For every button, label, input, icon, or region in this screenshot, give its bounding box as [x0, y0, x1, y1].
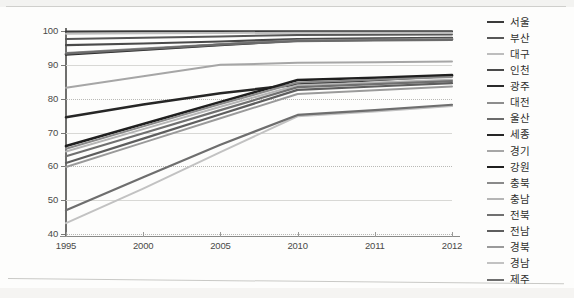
legend-item-인천[interactable]: 인천	[487, 62, 567, 78]
legend-swatch-icon	[487, 118, 504, 120]
y-tick-label-50: 50	[32, 194, 58, 205]
y-tick-label-60: 60	[32, 160, 58, 171]
legend: 서울부산대구인천광주대전울산세종경기강원충북충남전북전남경북경남제주	[487, 14, 567, 288]
legend-item-경기[interactable]: 경기	[487, 143, 567, 159]
legend-label: 서울	[510, 17, 530, 28]
legend-label: 인천	[510, 65, 530, 76]
legend-item-대전[interactable]: 대전	[487, 94, 567, 110]
legend-label: 부산	[510, 33, 530, 44]
legend-swatch-icon	[487, 182, 504, 184]
legend-label: 경기	[510, 146, 530, 157]
legend-label: 충남	[510, 194, 530, 205]
x-tick-label-1995: 1995	[43, 240, 89, 251]
x-tick-label-2011: 2011	[352, 240, 398, 251]
legend-swatch-icon	[487, 134, 504, 136]
x-tick-mark-2010	[298, 232, 299, 237]
legend-swatch-icon	[487, 37, 504, 39]
legend-label: 세종	[510, 129, 530, 140]
y-tick-label-70: 70	[32, 127, 58, 138]
legend-swatch-icon	[487, 279, 504, 281]
legend-swatch-icon	[487, 246, 504, 248]
x-axis-line	[60, 236, 460, 237]
legend-item-경북[interactable]: 경북	[487, 239, 567, 255]
x-tick-mark-2012	[452, 232, 453, 237]
legend-item-경남[interactable]: 경남	[487, 255, 567, 271]
legend-item-제주[interactable]: 제주	[487, 272, 567, 288]
x-tick-mark-2005	[220, 232, 221, 237]
chart-page: 100908070605040 199520002005201020112012…	[0, 0, 574, 298]
legend-label: 전북	[510, 210, 530, 221]
series-line-대구	[66, 33, 452, 34]
y-tick-label-80: 80	[32, 93, 58, 104]
y-tick-label-90: 90	[32, 59, 58, 70]
legend-label: 경북	[510, 242, 530, 253]
legend-item-서울[interactable]: 서울	[487, 14, 567, 30]
legend-label: 충북	[510, 178, 530, 189]
legend-item-충북[interactable]: 충북	[487, 175, 567, 191]
legend-swatch-icon	[487, 214, 504, 216]
x-tick-mark-2000	[143, 232, 144, 237]
legend-label: 대구	[510, 49, 530, 60]
legend-item-전남[interactable]: 전남	[487, 223, 567, 239]
chart-area: 100908070605040 199520002005201020112012	[0, 0, 470, 270]
y-tick-label-100: 100	[32, 25, 58, 36]
legend-label: 전남	[510, 226, 530, 237]
x-tick-label-2010: 2010	[275, 240, 321, 251]
legend-swatch-icon	[487, 230, 504, 232]
legend-item-부산[interactable]: 부산	[487, 30, 567, 46]
x-tick-mark-2011	[375, 232, 376, 237]
legend-item-강원[interactable]: 강원	[487, 159, 567, 175]
scan-edge-bottom	[0, 288, 574, 298]
legend-swatch-icon	[487, 150, 504, 152]
series-lines	[66, 31, 452, 234]
x-tick-mark-1995	[66, 232, 67, 237]
legend-label: 울산	[510, 113, 530, 124]
legend-item-울산[interactable]: 울산	[487, 111, 567, 127]
legend-label: 제주	[510, 274, 530, 285]
legend-swatch-icon	[487, 198, 504, 200]
legend-label: 강원	[510, 162, 530, 173]
legend-swatch-icon	[487, 85, 504, 87]
legend-label: 경남	[510, 258, 530, 269]
legend-item-광주[interactable]: 광주	[487, 78, 567, 94]
x-tick-label-2005: 2005	[197, 240, 243, 251]
legend-swatch-icon	[487, 166, 504, 168]
legend-swatch-icon	[487, 262, 504, 264]
x-tick-label-2012: 2012	[429, 240, 475, 251]
legend-item-세종[interactable]: 세종	[487, 127, 567, 143]
series-line-제주	[66, 105, 452, 211]
legend-item-전북[interactable]: 전북	[487, 207, 567, 223]
legend-swatch-icon	[487, 69, 504, 71]
series-line-경남	[66, 106, 452, 223]
gridline-40	[66, 234, 452, 235]
legend-swatch-icon	[487, 21, 504, 23]
legend-swatch-icon	[487, 102, 504, 104]
y-tick-label-40: 40	[32, 228, 58, 239]
x-tick-label-2000: 2000	[120, 240, 166, 251]
legend-item-충남[interactable]: 충남	[487, 191, 567, 207]
legend-item-대구[interactable]: 대구	[487, 46, 567, 62]
legend-label: 광주	[510, 81, 530, 92]
legend-swatch-icon	[487, 53, 504, 55]
legend-label: 대전	[510, 97, 530, 108]
scan-border-line-bottom	[8, 278, 564, 284]
plot-region	[66, 31, 452, 234]
